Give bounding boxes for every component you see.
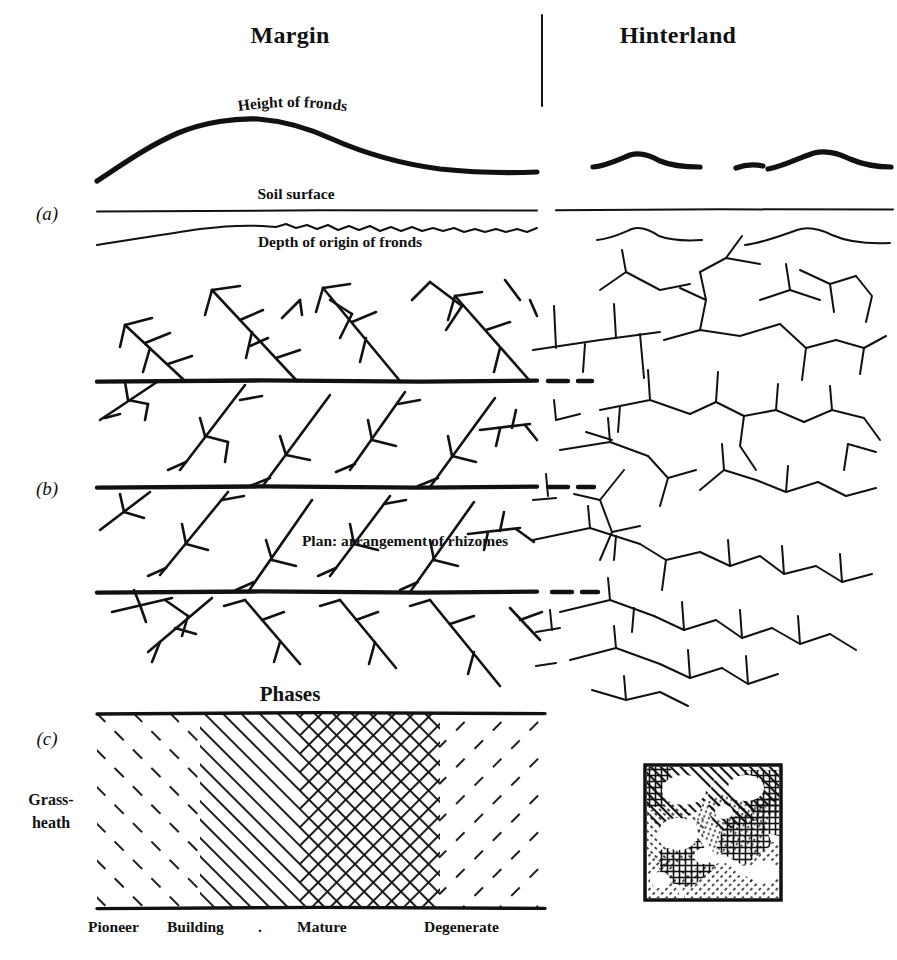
mosaic-inset <box>645 765 781 900</box>
phase-label-degenerate: Degenerate <box>424 918 499 935</box>
phases-bottom-rule <box>97 907 545 908</box>
phase-label-dot: . <box>258 918 262 935</box>
soil-surface-hinterland <box>556 209 893 210</box>
fronds-height-hinterland-1 <box>593 154 700 167</box>
depth-origin-label: Depth of origin of fronds <box>258 233 422 250</box>
fronds-height-hinterland-3 <box>768 152 891 169</box>
panel-b-label: (b) <box>36 478 58 500</box>
panel-c: Phases (c) Grass- heath Pioneer Building… <box>28 682 545 935</box>
phase-label-building: Building <box>167 918 224 935</box>
soil-surface-margin <box>97 210 537 211</box>
panel-a-label: (a) <box>36 203 58 225</box>
height-of-fronds-label: Height of fronds <box>237 93 349 114</box>
phases-top-rule <box>97 713 545 714</box>
header-hinterland: Hinterland <box>620 22 737 48</box>
figure-root: Margin Hinterland (a) Height of fronds S… <box>0 0 897 960</box>
rhizomes-hinterland <box>533 236 886 706</box>
fronds-height-margin <box>97 119 537 181</box>
rhizomes-margin-band-4 <box>112 590 542 686</box>
phase-label-mature: Mature <box>297 918 347 935</box>
phase-zone-mature <box>300 714 440 908</box>
grass-heath-label-line2: heath <box>32 814 70 831</box>
panel-b: (b) <box>36 236 886 706</box>
rhizome-plan-caption: Plan: arrangement of rhizomes <box>302 532 508 549</box>
panel-c-label: (c) <box>36 728 57 750</box>
soil-surface-label: Soil surface <box>257 185 334 202</box>
rhizomes-margin-band-2 <box>100 380 537 487</box>
fronds-height-hinterland-2 <box>736 165 763 168</box>
phases-title: Phases <box>260 682 321 706</box>
rhizomes-margin-band-1 <box>120 280 537 381</box>
phase-zone-pioneer <box>97 714 200 908</box>
phase-zone-degenerate <box>440 714 545 908</box>
phase-zone-building <box>200 714 300 908</box>
phase-label-pioneer: Pioneer <box>88 918 139 935</box>
panel-a: (a) Height of fronds Soil surface Depth … <box>36 93 893 250</box>
grass-heath-label-line1: Grass- <box>28 791 73 808</box>
mosaic-inset-content <box>647 767 779 898</box>
depth-origin-hinterland-2 <box>745 228 890 245</box>
figure-svg: Margin Hinterland (a) Height of fronds S… <box>0 0 897 960</box>
depth-origin-hinterland-1 <box>597 228 702 240</box>
header-margin: Margin <box>250 22 329 48</box>
